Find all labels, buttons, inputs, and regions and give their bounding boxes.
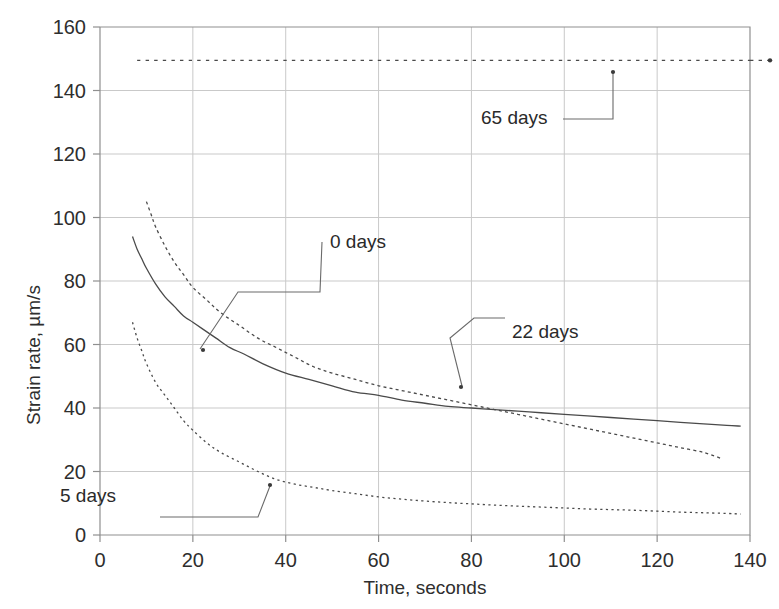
y-tick-label: 40 <box>64 397 86 419</box>
y-tick-label: 60 <box>64 334 86 356</box>
strain-rate-vs-time-chart: 0 days22 days65 days5 days 0204060801001… <box>0 0 779 609</box>
series-end-marker-65-days <box>768 58 772 62</box>
series-annotation-label: 0 days <box>330 231 386 252</box>
y-tick-label: 100 <box>53 207 86 229</box>
chart-background <box>0 0 779 609</box>
y-tick-label: 20 <box>64 461 86 483</box>
x-tick-label: 80 <box>460 549 482 571</box>
x-tick-label: 60 <box>367 549 389 571</box>
series-annotation-label: 65 days <box>481 107 548 128</box>
y-tick-label: 0 <box>75 524 86 546</box>
x-tick-label: 100 <box>548 549 581 571</box>
annotation-anchor-22-days <box>459 385 463 389</box>
annotation-anchor-0-days <box>201 348 205 352</box>
x-tick-label: 0 <box>94 549 105 571</box>
x-tick-label: 20 <box>182 549 204 571</box>
series-annotation-label: 5 days <box>60 485 116 506</box>
y-tick-label: 120 <box>53 143 86 165</box>
annotation-anchor-65-days <box>611 70 615 74</box>
series-annotation-label: 22 days <box>512 321 579 342</box>
x-tick-label: 140 <box>733 549 766 571</box>
y-tick-label: 80 <box>64 270 86 292</box>
y-axis-title: Strain rate, µm/s <box>23 285 44 425</box>
y-tick-label: 140 <box>53 80 86 102</box>
x-tick-label: 120 <box>640 549 673 571</box>
x-tick-label: 40 <box>275 549 297 571</box>
annotation-anchor-5-days <box>268 483 272 487</box>
x-axis-title: Time, seconds <box>364 577 487 598</box>
y-tick-label: 160 <box>53 16 86 38</box>
chart-figure: 0 days22 days65 days5 days 0204060801001… <box>0 0 779 609</box>
